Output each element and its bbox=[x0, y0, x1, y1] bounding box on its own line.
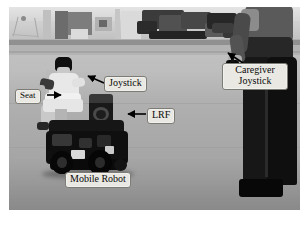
label-joystick-text: Joystick bbox=[109, 77, 142, 88]
wall-mounted-box-inset bbox=[99, 20, 107, 27]
caregiver-held-object-lower bbox=[212, 23, 234, 33]
background-equipment-5 bbox=[149, 31, 207, 39]
label-seat-text: Seat bbox=[20, 90, 36, 100]
lrf-sensor-top bbox=[89, 94, 113, 103]
figure-root: Seat Joystick LRF Caregiver Joystick Mob… bbox=[0, 0, 308, 225]
robot-caster-wheel bbox=[114, 159, 127, 171]
label-mobile-robot-text: Mobile Robot bbox=[70, 173, 126, 184]
rider-foot bbox=[37, 122, 49, 130]
robot-base-label-plate bbox=[71, 150, 85, 159]
label-joystick: Joystick bbox=[104, 76, 147, 92]
label-lrf: LRF bbox=[147, 108, 175, 124]
robot-wheel-right-hub bbox=[95, 157, 105, 168]
label-lrf-text: LRF bbox=[152, 109, 170, 120]
lrf-sensor-lens-inner bbox=[96, 110, 106, 119]
robot-base-panel-2 bbox=[79, 138, 92, 148]
caregiver-shoes bbox=[239, 179, 283, 197]
caregiver-joystick-lever bbox=[231, 55, 234, 62]
label-caregiver-joystick: Caregiver Joystick bbox=[222, 63, 288, 90]
robot-base-panel-1 bbox=[52, 134, 72, 146]
label-caregiver-joystick-line2: Joystick bbox=[227, 76, 283, 87]
label-mobile-robot: Mobile Robot bbox=[65, 172, 131, 188]
label-seat: Seat bbox=[15, 89, 41, 104]
robot-wheel-left-hub bbox=[57, 157, 67, 168]
